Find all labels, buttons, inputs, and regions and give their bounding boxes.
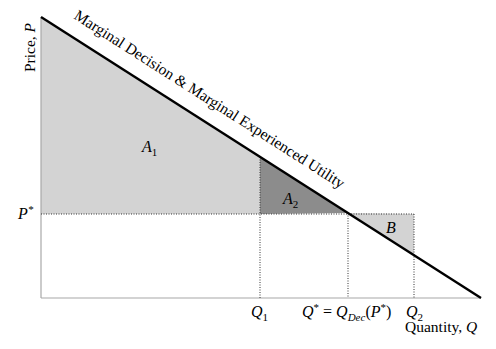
y-axis-label: Price, P: [21, 22, 38, 72]
x-axis-label: Quantity, Q: [405, 318, 477, 335]
qstar-label: Q* = QDec(P*): [302, 301, 391, 323]
p-star-label: P*: [17, 203, 34, 222]
utility-diagram: Marginal Decision & Marginal Experienced…: [0, 0, 496, 349]
q1-label: Q1: [251, 303, 268, 323]
region-b-label: B: [386, 219, 396, 236]
